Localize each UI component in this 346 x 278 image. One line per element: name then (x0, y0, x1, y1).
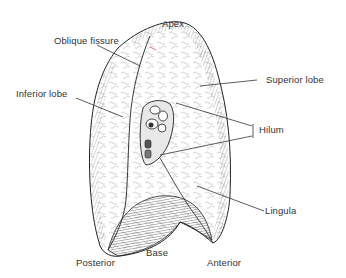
label-apex: Apex (162, 19, 184, 29)
label-base: Base (146, 248, 168, 258)
lung-illustration (0, 0, 346, 278)
label-posterior: Posterior (76, 258, 115, 268)
label-hilum: Hilum (259, 125, 284, 135)
label-lingula: Lingula (265, 206, 296, 216)
lung-diagram: Apex Oblique fissure Superior lobe Infer… (0, 0, 346, 278)
label-superior-lobe: Superior lobe (266, 75, 324, 85)
label-inferior-lobe: Inferior lobe (16, 89, 67, 99)
label-anterior: Anterior (207, 258, 241, 268)
label-oblique-fissure: Oblique fissure (54, 36, 119, 46)
